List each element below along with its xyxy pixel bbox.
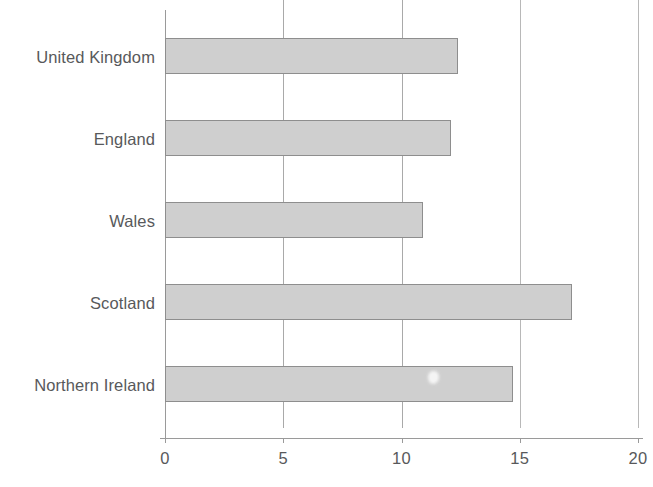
- bar-england[interactable]: [165, 120, 451, 156]
- category-label-scotland: Scotland: [0, 294, 155, 313]
- plot-area: [165, 10, 638, 438]
- gridline-20: [638, 0, 639, 428]
- tick-label-0: 0: [160, 449, 169, 468]
- category-label-wales: Wales: [0, 212, 155, 231]
- scan-artifact-smudge: [428, 371, 439, 384]
- tick-mark-0: [165, 438, 166, 443]
- tick-label-5: 5: [279, 449, 288, 468]
- tick-mark-20: [638, 438, 639, 443]
- tick-mark-10: [402, 438, 403, 443]
- tick-label-20: 20: [629, 449, 648, 468]
- bar-united-kingdom[interactable]: [165, 38, 458, 74]
- bar-northern-ireland[interactable]: [165, 366, 513, 402]
- tick-label-15: 15: [510, 449, 529, 468]
- bar-chart: United Kingdom England Wales Scotland No…: [0, 0, 653, 487]
- bar-scotland[interactable]: [165, 284, 572, 320]
- category-label-united-kingdom: United Kingdom: [0, 48, 155, 67]
- category-label-england: England: [0, 130, 155, 149]
- category-axis-labels: United Kingdom England Wales Scotland No…: [0, 0, 155, 487]
- category-label-northern-ireland: Northern Ireland: [0, 376, 155, 395]
- bar-wales[interactable]: [165, 202, 423, 238]
- tick-mark-5: [283, 438, 284, 443]
- tick-label-10: 10: [392, 449, 411, 468]
- tick-mark-15: [520, 438, 521, 443]
